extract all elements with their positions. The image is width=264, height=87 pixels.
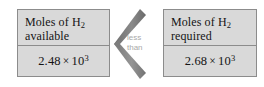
right-box-header-line-1-text: Moles of H — [171, 15, 227, 29]
right-box-header-cell: Moles of H2 required — [164, 10, 256, 46]
comparator-label: less than — [127, 33, 157, 52]
right-quantity-box: Moles of H2 required 2.68×103 — [163, 9, 257, 77]
right-box-value-cell: 2.68×103 — [164, 46, 256, 76]
comparator-label-line-2: than — [127, 43, 157, 53]
left-box-header-line-1: Moles of H2 — [25, 15, 85, 29]
left-box-value-base: 10 — [72, 54, 85, 68]
comparison-figure: Moles of H2 available 2.48×103 — [0, 0, 264, 87]
right-box-subscript: 2 — [227, 20, 231, 30]
left-box-value-mantissa: 2.48 — [38, 54, 61, 68]
left-box-value-exponent: 3 — [84, 52, 88, 62]
right-box-value-exponent: 3 — [231, 52, 235, 62]
right-box-value-mantissa: 2.68 — [185, 54, 208, 68]
right-box-header-line-1: Moles of H2 — [171, 15, 231, 29]
left-box-header-cell: Moles of H2 available — [18, 10, 109, 46]
comparator-label-line-1: less — [127, 33, 157, 43]
right-box-value-base: 10 — [218, 54, 231, 68]
left-quantity-box: Moles of H2 available 2.48×103 — [17, 9, 110, 77]
left-box-header-line-1-text: Moles of H — [25, 15, 81, 29]
right-box-header-line-2: required — [171, 29, 212, 43]
left-box-value: 2.48×103 — [38, 54, 89, 69]
right-box-value: 2.68×103 — [185, 54, 236, 69]
left-box-value-cell: 2.48×103 — [18, 46, 109, 76]
left-box-value-times-sign: × — [63, 55, 70, 67]
left-box-subscript: 2 — [81, 20, 85, 30]
right-box-value-times-sign: × — [209, 55, 216, 67]
left-box-header-line-2: available — [25, 29, 69, 43]
